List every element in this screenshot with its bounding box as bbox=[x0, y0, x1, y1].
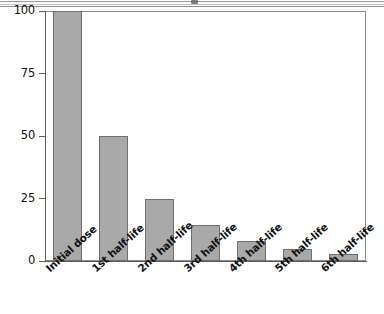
y-axis-tick bbox=[39, 11, 45, 12]
bar bbox=[53, 11, 82, 261]
y-axis-tick bbox=[39, 136, 45, 137]
chart-title bbox=[0, 0, 1, 1]
y-axis-tick-label: 100 bbox=[1, 5, 35, 17]
y-axis-tick-label: 50 bbox=[1, 130, 35, 142]
x-axis-label bbox=[0, 0, 1, 1]
y-axis-label bbox=[0, 0, 1, 1]
y-axis-tick-label: 0 bbox=[1, 255, 35, 267]
bar-chart-figure: 0255075100 Initial dose1st half-life2nd … bbox=[0, 0, 384, 314]
y-axis-tick bbox=[39, 73, 45, 74]
y-axis-tick-label: 75 bbox=[1, 68, 35, 80]
y-axis-spine bbox=[45, 11, 46, 262]
y-axis-tick bbox=[39, 261, 45, 262]
y-axis-tick-label: 25 bbox=[1, 193, 35, 205]
y-axis-tick bbox=[39, 198, 45, 199]
